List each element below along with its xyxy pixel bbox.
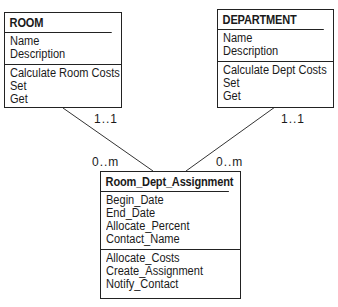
class-department-operations: Calculate Dept Costs Set Get [218,61,333,106]
attribute: Description [223,45,320,58]
multiplicity-department-assignment-end: 0..m [216,155,243,169]
class-room-attributes: Name Description [5,33,121,64]
class-assignment-operations: Allocate_Costs Create_Assignment Notify_… [101,249,240,294]
multiplicity-room-assignment-end: 0..m [92,155,119,169]
class-room[interactable]: ROOM Name Description Calculate Room Cos… [4,12,122,108]
class-assignment-name: Room_Dept_Assignment [101,172,229,192]
multiplicity-room-end: 1..1 [94,112,118,126]
operation: Notify_Contact [106,278,225,291]
class-department-attributes: Name Description [218,30,333,61]
class-room-operations: Calculate Room Costs Set Get [5,64,121,109]
class-department-name: DEPARTMENT [218,10,324,30]
class-department[interactable]: DEPARTMENT Name Description Calculate De… [217,9,334,108]
attribute: Description [10,48,108,61]
class-room-name: ROOM [5,13,112,33]
class-assignment-attributes: Begin_Date End_Date Allocate_Percent Con… [101,192,240,249]
operation: Get [223,90,320,103]
operation: Get [10,93,108,106]
multiplicity-department-end: 1..1 [281,112,305,126]
class-room-dept-assignment[interactable]: Room_Dept_Assignment Begin_Date End_Date… [100,171,241,299]
attribute: Contact_Name [106,233,225,246]
